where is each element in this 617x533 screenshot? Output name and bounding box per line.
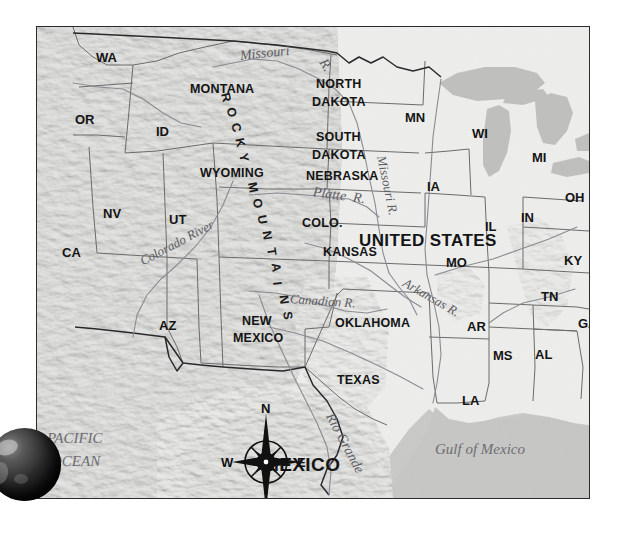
compass-rose-icon <box>223 405 309 499</box>
compass-label-east: E <box>297 455 306 470</box>
compass-label-north: N <box>261 401 270 416</box>
map-figure: WAORIDMONTANAWYOMINGNVUTCAAZCOLO.NEWMEXI… <box>0 0 617 533</box>
compass-rose: N S E W <box>223 405 309 499</box>
map-geography <box>37 27 589 498</box>
map-canvas[interactable]: WAORIDMONTANAWYOMINGNVUTCAAZCOLO.NEWMEXI… <box>36 26 590 499</box>
compass-label-west: W <box>221 455 233 470</box>
